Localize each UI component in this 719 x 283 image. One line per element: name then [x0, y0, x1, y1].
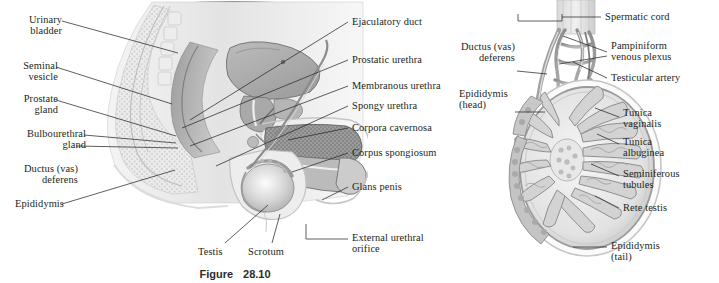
label-spongy-urethra: Spongy urethra	[352, 100, 468, 111]
label-ductus-vas-deferens-b: Ductus (vas) deferens	[447, 41, 515, 64]
label-rete-testis: Rete testis	[623, 202, 709, 213]
label-bulbourethral-gland: Bulbourethral gland	[0, 128, 86, 151]
label-spermatic-cord: Spermatic cord	[605, 11, 715, 22]
label-seminal-vesicle: Seminal vesicle	[0, 60, 58, 83]
label-epididymis: Epididymis	[0, 198, 64, 209]
label-scrotum: Scrotum	[248, 246, 304, 257]
label-epididymis-tail: Epididymis (tail)	[611, 240, 701, 263]
label-testicular-artery: Testicular artery	[611, 72, 717, 83]
sagittal-illustration	[78, 0, 368, 250]
label-external-urethral-orifice: External urethral orifice	[352, 232, 464, 255]
panel-sagittal-section: Urinary bladder Seminal vesicle Prostate…	[0, 0, 470, 283]
label-corpus-spongiosum: Corpus spongiosum	[352, 147, 470, 158]
label-testis: Testis	[198, 246, 242, 257]
label-corpora-cavernosa: Corpora cavernosa	[352, 122, 468, 133]
label-ejaculatory-duct: Ejaculatory duct	[352, 16, 468, 27]
panel-testis-section: Ductus (vas) deferens Epididymis (head) …	[455, 0, 719, 283]
label-membranous-urethra: Membranous urethra	[352, 80, 472, 91]
caption-number: 28.10	[243, 268, 271, 280]
label-prostate-gland: Prostate gland	[0, 93, 58, 116]
label-epididymis-head: Epididymis (head)	[459, 88, 521, 111]
anatomy-figure: Urinary bladder Seminal vesicle Prostate…	[0, 0, 719, 283]
label-pampiniform-venous-plexus: Pampiniform venous plexus	[611, 40, 717, 63]
label-glans-penis: Glans penis	[352, 181, 462, 192]
caption-label: Figure	[199, 268, 233, 280]
label-ductus-vas-deferens: Ductus (vas) deferens	[0, 163, 78, 186]
figure-caption: Figure28.10	[0, 268, 470, 283]
label-urinary-bladder: Urinary bladder	[0, 14, 62, 37]
label-tunica-albuginea: Tunica albuginea	[623, 136, 709, 159]
label-seminiferous-tubules: Seminiferous tubules	[623, 168, 715, 191]
label-tunica-vaginalis: Tunica vaginalis	[623, 107, 709, 130]
